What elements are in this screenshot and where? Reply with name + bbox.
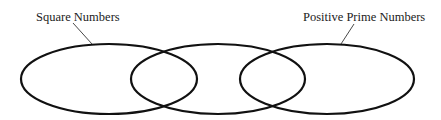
label-square-numbers: Square Numbers: [36, 10, 120, 24]
leader-line-positive-prime-numbers: [341, 24, 354, 44]
label-positive-prime-numbers: Positive Prime Numbers: [303, 10, 425, 24]
leader-line-square-numbers: [73, 23, 92, 44]
ellipse-middle-set: [131, 44, 305, 114]
ellipse-square-numbers: [21, 44, 197, 114]
ellipse-positive-prime-numbers: [240, 44, 414, 114]
venn-diagram: Square Numbers Positive Prime Numbers: [0, 0, 441, 120]
